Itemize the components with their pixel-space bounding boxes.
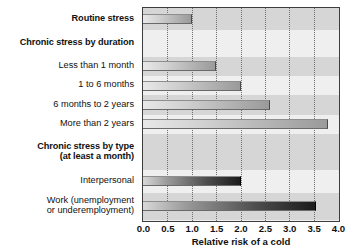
x-tick-label: 3.0 <box>283 223 296 234</box>
x-tick-label: 0.5 <box>161 223 174 234</box>
category-label: Work (unemployment or underemployment) <box>47 195 134 216</box>
bar-less-than-1-month <box>143 61 216 71</box>
x-tick-label: 2.5 <box>259 223 272 234</box>
gridline <box>167 8 168 221</box>
x-tick-label: 4.0 <box>332 223 345 234</box>
category-label: Less than 1 month <box>58 60 134 70</box>
gridline <box>265 8 266 221</box>
plot-area <box>142 7 340 222</box>
relative-risk-bar-chart: Routine stressChronic stress by duration… <box>0 0 352 250</box>
category-label-column: Routine stressChronic stress by duration… <box>0 0 138 224</box>
bar-work-unemployment <box>143 201 316 211</box>
category-label: Routine stress <box>72 13 134 23</box>
bar-more-than-2-years <box>143 119 328 129</box>
bar-6-months-to-2-years <box>143 100 270 110</box>
x-tick-label: 3.5 <box>307 223 320 234</box>
bar-1-to-6-months <box>143 81 241 91</box>
gridline <box>192 8 193 221</box>
gridline <box>289 8 290 221</box>
x-tick-label: 2.0 <box>234 223 247 234</box>
bar-routine-stress <box>143 14 192 24</box>
gridline <box>314 8 315 221</box>
x-tick-label: 1.0 <box>186 223 199 234</box>
category-label: Interpersonal <box>80 175 134 185</box>
category-label: 6 months to 2 years <box>53 99 134 109</box>
x-axis-ticks: 0.00.51.01.52.02.53.03.54.0 <box>142 223 340 237</box>
x-axis-title: Relative risk of a cold <box>142 236 340 247</box>
category-label: 1 to 6 months <box>78 79 134 89</box>
section-header-label: Chronic stress by duration <box>20 37 134 47</box>
x-tick-label: 0.0 <box>137 223 150 234</box>
section-header-label: Chronic stress by type (at least a month… <box>37 141 134 162</box>
x-tick-label: 1.5 <box>210 223 223 234</box>
bar-interpersonal <box>143 176 241 186</box>
gridline <box>216 8 217 221</box>
gridline <box>241 8 242 221</box>
category-label: More than 2 years <box>60 118 134 128</box>
